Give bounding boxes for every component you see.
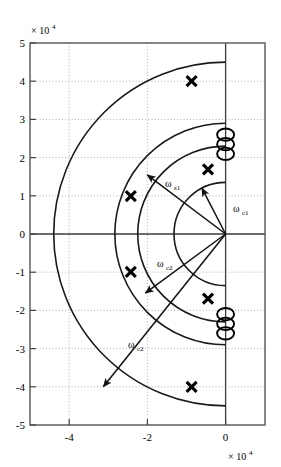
omega-c2-base: ω: [157, 258, 164, 269]
y-tick-label: 2: [20, 152, 26, 164]
y-tick-label: -5: [16, 419, 26, 431]
y-tick-label: 1: [20, 190, 26, 202]
x-tick-label: -4: [65, 431, 75, 443]
x-multiplier-exponent: 4: [249, 449, 253, 457]
omega-c2-subscript: c2: [166, 264, 173, 272]
y-multiplier-exponent: 4: [52, 23, 56, 31]
omega-e2-subscript: c2: [137, 345, 144, 353]
omega-s1-base: ω: [165, 178, 172, 189]
y-tick-label: -4: [16, 381, 26, 393]
y-tick-label: 3: [20, 113, 26, 125]
omega-e2-base: ω: [128, 339, 135, 350]
chart-container: 5 4 3 2 1 0 -1 -2 -3 -4 -5 -4 -2 0 × 10 …: [0, 0, 281, 467]
y-axis-multiplier: × 10 4: [31, 23, 56, 36]
y-tick-label: -1: [16, 266, 25, 278]
omega-c1-base: ω: [233, 203, 240, 214]
y-tick-label: -3: [16, 343, 26, 355]
y-tick-label: -2: [16, 304, 25, 316]
y-tick-labels: 5 4 3 2 1 0 -1 -2 -3 -4 -5: [16, 37, 26, 431]
y-tick-label: 4: [20, 75, 26, 87]
y-tick-label: 5: [20, 37, 26, 49]
x-tick-labels: -4 -2 0: [65, 431, 229, 443]
pole-zero-plot: 5 4 3 2 1 0 -1 -2 -3 -4 -5 -4 -2 0 × 10 …: [0, 0, 281, 467]
y-tick-label: 0: [20, 228, 26, 240]
y-multiplier-text: × 10: [31, 25, 49, 36]
x-axis-multiplier: × 10 4: [228, 449, 253, 462]
omega-s1-subscript: s1: [174, 184, 181, 192]
omega-c1-subscript: c1: [242, 209, 249, 217]
x-tick-label: -2: [143, 431, 152, 443]
x-tick-label: 0: [223, 431, 229, 443]
x-multiplier-text: × 10: [228, 451, 246, 462]
